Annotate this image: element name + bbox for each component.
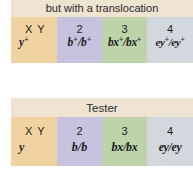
chromosome-cell-3: 3 bx+/bx+ xyxy=(102,17,147,63)
genotype: b/b xyxy=(72,141,87,154)
genotype: b+/b+ xyxy=(68,36,92,49)
chromosome-cell-3: 3 bx/bx xyxy=(102,117,147,166)
tester-panel: Tester X Y y 2 b/b 3 bx/bx 4 ey/ey xyxy=(11,98,193,166)
chromosome-label: 2 xyxy=(76,23,82,35)
genotype: bx/bx xyxy=(112,141,138,154)
genotype: ey+/ey+ xyxy=(156,36,185,49)
chromosome-label: 4 xyxy=(167,125,173,137)
translocation-panel: but with a translocation X Y y+ 2 b+/b+ … xyxy=(11,0,193,63)
panel-header: but with a translocation xyxy=(11,0,193,17)
chromosome-row: X Y y 2 b/b 3 bx/bx 4 ey/ey xyxy=(11,117,193,166)
chromosome-label: X Y xyxy=(25,23,46,35)
chromosome-label: 4 xyxy=(167,23,173,35)
chromosome-cell-xy: X Y y+ xyxy=(11,17,57,63)
chromosome-cell-2: 2 b/b xyxy=(57,117,102,166)
chromosome-cell-2: 2 b+/b+ xyxy=(57,17,102,63)
chromosome-row: X Y y+ 2 b+/b+ 3 bx+/bx+ 4 ey+/ey+ xyxy=(11,17,193,63)
genotype: y xyxy=(19,141,24,154)
chromosome-cell-4: 4 ey/ey xyxy=(147,117,193,166)
chromosome-label: 2 xyxy=(76,125,82,137)
chromosome-cell-xy: X Y y xyxy=(11,117,57,166)
genotype: ey/ey xyxy=(159,141,182,154)
chromosome-label: 3 xyxy=(121,125,127,137)
chromosome-label: 3 xyxy=(121,23,127,35)
panel-header: Tester xyxy=(11,98,193,117)
genotype: y+ xyxy=(19,36,29,49)
genotype: bx+/bx+ xyxy=(108,36,141,49)
chromosome-cell-4: 4 ey+/ey+ xyxy=(147,17,193,63)
chromosome-label: X Y xyxy=(25,125,46,137)
